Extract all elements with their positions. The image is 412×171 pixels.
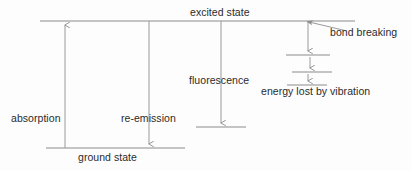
label-re-emission: re-emission [121,112,176,124]
energy-level-diagram: excited state bond breaking fluorescence… [0,0,412,171]
label-energy-lost-by-vibration: energy lost by vibration [261,85,370,97]
label-excited-state: excited state [190,6,250,18]
label-fluorescence: fluorescence [189,74,249,86]
label-ground-state: ground state [78,151,137,163]
label-absorption: absorption [11,112,61,124]
label-bond-breaking: bond breaking [330,26,397,38]
